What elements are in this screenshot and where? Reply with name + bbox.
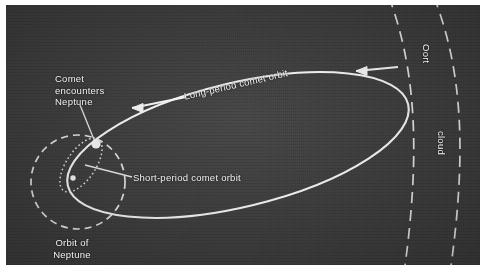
diagram-stage: CometencountersNeptune Long-period comet…: [0, 0, 486, 273]
leader-line-short-period: [85, 165, 132, 177]
star-field-panel: [6, 5, 480, 265]
label-comet-line2: encounters: [55, 85, 105, 96]
label-orbit-of-neptune: Orbit ofNeptune: [26, 237, 118, 260]
label-comet-line1: Comet: [55, 73, 84, 84]
label-comet-encounters-neptune: CometencountersNeptune: [55, 73, 105, 108]
encounter-marker-dot: [91, 139, 100, 148]
orbit-artwork: [6, 5, 480, 265]
label-comet-line3: Neptune: [55, 96, 93, 107]
label-cloud: cloud: [436, 131, 448, 155]
label-oort: Oort: [421, 44, 433, 63]
direction-arrow-right: [356, 67, 398, 76]
label-short-period-comet-orbit: Short-period comet orbit: [133, 172, 241, 184]
label-neptune-line1: Orbit of: [55, 237, 88, 248]
label-neptune-line2: Neptune: [53, 249, 91, 260]
sun-marker-dot: [70, 175, 75, 180]
oort-arc-inner: [389, 5, 414, 265]
